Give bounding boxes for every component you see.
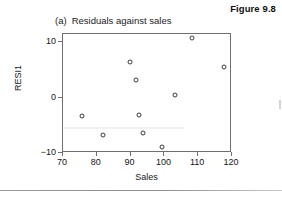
- data-point-marker: [101, 133, 106, 138]
- scan-smudge: [64, 127, 184, 129]
- scan-edge-artifact: [279, 100, 281, 109]
- data-point-marker: [160, 144, 165, 149]
- x-axis-tick: [197, 152, 198, 156]
- figure-number-label: Figure 9.8: [230, 3, 276, 14]
- panel-letter-label: (a): [55, 15, 67, 26]
- panel-title: (a)Residuals against sales: [55, 15, 171, 26]
- x-axis-tick: [130, 152, 131, 156]
- x-axis-tick: [96, 152, 97, 156]
- plot-frame: [62, 33, 231, 152]
- y-axis-tick: [58, 97, 62, 98]
- data-point-marker: [137, 112, 142, 117]
- data-point-marker: [221, 65, 226, 70]
- x-axis-label: Sales: [62, 172, 231, 182]
- x-axis-tick-label: 90: [125, 157, 135, 167]
- data-point-marker: [127, 59, 132, 64]
- data-point-marker: [190, 36, 195, 41]
- y-axis-tick-label: 0: [51, 92, 56, 102]
- y-axis-tick: [58, 152, 62, 153]
- data-point-marker: [134, 78, 139, 83]
- y-axis-label: RESI1: [13, 48, 23, 108]
- scatter-plot-area: [63, 34, 230, 151]
- x-axis-tick-label: 110: [190, 157, 204, 167]
- data-point-marker: [141, 131, 146, 136]
- page-divider-rule: [0, 190, 282, 191]
- x-axis-tick-label: 120: [223, 157, 238, 167]
- x-axis-tick: [163, 152, 164, 156]
- y-axis-tick-label: 10: [46, 36, 56, 46]
- x-axis-tick-label: 70: [57, 157, 67, 167]
- data-point-marker: [79, 113, 84, 118]
- panel-title-text: Residuals against sales: [72, 15, 172, 26]
- data-point-marker: [172, 92, 177, 97]
- x-axis-tick: [231, 152, 232, 156]
- x-axis-tick-label: 80: [91, 157, 101, 167]
- figure-container: Figure 9.8 (a)Residuals against sales 70…: [0, 0, 282, 202]
- x-axis-tick-label: 100: [156, 157, 171, 167]
- y-axis-tick-label: −10: [41, 147, 56, 157]
- x-axis-tick: [62, 152, 63, 156]
- y-axis-tick: [58, 41, 62, 42]
